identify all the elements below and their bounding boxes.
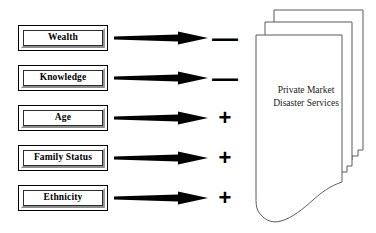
factor-box-inner: Age bbox=[23, 110, 103, 126]
factor-box-knowledge[interactable]: Knowledge bbox=[18, 65, 108, 91]
factor-label-wealth: Wealth bbox=[48, 33, 78, 43]
factor-box-inner: Knowledge bbox=[23, 70, 103, 86]
factor-box-wealth[interactable]: Wealth bbox=[18, 25, 108, 51]
factor-box-inner: Wealth bbox=[23, 30, 103, 46]
plus-sign-ethnicity: + bbox=[214, 185, 236, 211]
factor-box-bevel: Family Status bbox=[21, 148, 105, 168]
factor-box-bevel: Wealth bbox=[21, 28, 105, 48]
factor-box-inner: Ethnicity bbox=[23, 190, 103, 206]
document-label-line-2: Disaster Services bbox=[258, 97, 354, 110]
factor-label-knowledge: Knowledge bbox=[40, 73, 87, 83]
diagram-canvas: Wealth — Knowledge — Age + bbox=[0, 0, 376, 233]
factor-row-ethnicity: Ethnicity + bbox=[0, 185, 376, 213]
factor-box-ethnicity[interactable]: Ethnicity bbox=[18, 185, 108, 211]
factor-box-family-status[interactable]: Family Status bbox=[18, 145, 108, 171]
plus-sign-age: + bbox=[214, 105, 236, 131]
document-stack-label: Private Market Disaster Services bbox=[258, 84, 354, 110]
factor-box-bevel: Knowledge bbox=[21, 68, 105, 88]
factor-box-inner: Family Status bbox=[23, 150, 103, 166]
plus-sign-family-status: + bbox=[214, 145, 236, 171]
factor-box-bevel: Ethnicity bbox=[21, 188, 105, 208]
factor-row-wealth: Wealth — bbox=[0, 25, 376, 53]
factor-label-family-status: Family Status bbox=[34, 153, 92, 163]
factor-box-bevel: Age bbox=[21, 108, 105, 128]
minus-sign-knowledge: — bbox=[214, 65, 236, 91]
factor-row-family-status: Family Status + bbox=[0, 145, 376, 173]
factor-label-ethnicity: Ethnicity bbox=[44, 193, 83, 203]
factor-label-age: Age bbox=[55, 113, 71, 123]
document-label-line-1: Private Market bbox=[258, 84, 354, 97]
factor-box-age[interactable]: Age bbox=[18, 105, 108, 131]
minus-sign-wealth: — bbox=[214, 25, 236, 51]
